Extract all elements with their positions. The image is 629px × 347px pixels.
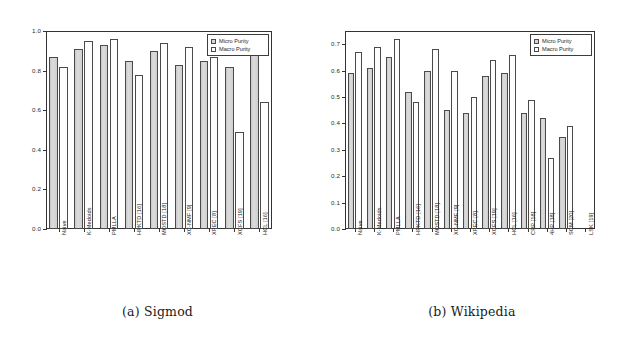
x-axis-tick	[432, 229, 433, 232]
bar-micro-purity	[175, 65, 184, 229]
bar-macro-purity	[490, 60, 497, 229]
x-axis-tick	[566, 229, 567, 232]
x-axis-tick	[412, 229, 413, 232]
x-axis-label: XCFS [19]	[491, 208, 497, 235]
x-axis-label: XPEC [8]	[472, 211, 478, 235]
bar-macro-purity	[84, 41, 93, 229]
panel-sigmod: 0.00.20.40.60.81.0NaiveK-MedoidsPMLLAHPK…	[0, 0, 315, 347]
y-axis-tick-label: 0.0	[319, 225, 340, 232]
x-axis-tick	[393, 229, 394, 232]
x-axis-tick	[159, 229, 160, 232]
x-axis-tick	[59, 229, 60, 232]
x-axis-tick	[355, 229, 356, 232]
bar-macro-purity	[471, 97, 478, 229]
y-axis-tick-label: 0.5	[319, 93, 340, 100]
bar-micro-purity	[424, 71, 431, 229]
caption-sigmod: (a) Sigmod	[0, 304, 315, 319]
bar-micro-purity	[100, 45, 109, 229]
y-axis-tick	[342, 229, 346, 230]
bar-micro-purity	[49, 57, 58, 229]
y-axis-tick-label: 0.6	[319, 67, 340, 74]
x-axis-tick	[489, 229, 490, 232]
x-axis-label: PMLLA	[395, 216, 401, 235]
y-axis-tick	[43, 110, 47, 111]
x-axis-label: XPEC [8]	[211, 211, 217, 235]
legend-swatch-macro-icon	[534, 47, 539, 52]
x-axis-tick	[528, 229, 529, 232]
x-axis-tick	[184, 229, 185, 232]
y-axis-tick	[342, 150, 346, 151]
bar-macro-purity	[59, 67, 68, 229]
x-axis-label: 4HP [18]	[549, 213, 555, 235]
x-axis-label: HCL [16]	[511, 212, 517, 235]
bar-macro-purity	[160, 43, 169, 229]
x-axis-label: LSK [19]	[588, 213, 594, 235]
bar-micro-purity	[405, 92, 412, 229]
x-axis-label: XC-NMF [9]	[186, 204, 192, 235]
y-axis-tick	[342, 176, 346, 177]
bar-micro-purity	[482, 76, 489, 229]
x-axis-tick	[508, 229, 509, 232]
bar-macro-purity	[509, 55, 516, 229]
bar-macro-purity	[210, 57, 219, 229]
y-axis-tick-label: 0.2	[319, 172, 340, 179]
x-axis-tick	[209, 229, 210, 232]
bar-micro-purity	[501, 73, 508, 229]
legend-item: Macro Purity	[211, 45, 265, 53]
x-axis-tick	[470, 229, 471, 232]
y-axis-tick-label: 0.1	[319, 199, 340, 206]
legend: Micro PurityMacro Purity	[207, 34, 269, 56]
x-axis-label: HPKTD [16]	[415, 204, 421, 235]
bar-micro-purity	[463, 113, 470, 229]
y-axis-tick	[43, 150, 47, 151]
bar-micro-purity	[521, 113, 528, 229]
x-axis-label: K-Medoids	[86, 207, 92, 235]
x-axis-label: HCL [16]	[262, 212, 268, 235]
bar-macro-purity	[260, 102, 269, 229]
bar-macro-purity	[110, 39, 119, 229]
y-axis-tick	[342, 97, 346, 98]
bar-macro-purity	[394, 39, 401, 229]
x-axis-tick	[234, 229, 235, 232]
x-axis-tick	[374, 229, 375, 232]
y-axis-tick-label: 0.4	[319, 119, 340, 126]
x-axis-tick	[547, 229, 548, 232]
x-axis-label: K-Medoids	[376, 207, 382, 235]
x-axis-tick	[585, 229, 586, 232]
x-axis-label: SCM [20]	[568, 211, 574, 235]
bar-micro-purity	[225, 67, 234, 229]
x-axis-label: MOSTD [18]	[161, 203, 167, 235]
x-axis-label: Naive	[357, 220, 363, 235]
bar-micro-purity	[386, 57, 393, 229]
y-axis-tick-label: 0.6	[20, 106, 41, 113]
x-axis-tick	[451, 229, 452, 232]
y-axis-tick-label: 0.4	[20, 146, 41, 153]
panel-wikipedia: 0.00.10.20.30.40.50.60.7NaiveK-MedoidsPM…	[315, 0, 629, 347]
y-axis-tick	[342, 203, 346, 204]
legend-label: Micro Purity	[542, 38, 572, 45]
legend-swatch-micro-icon	[211, 39, 216, 44]
bar-macro-purity	[374, 47, 381, 229]
y-axis-tick	[43, 189, 47, 190]
y-axis-tick	[342, 123, 346, 124]
x-axis-label: MOSTD [18]	[434, 203, 440, 235]
y-axis-tick	[43, 31, 47, 32]
bar-micro-purity	[74, 49, 83, 229]
y-axis-tick	[43, 229, 47, 230]
x-axis-label: PMLLA	[111, 216, 117, 235]
y-axis-tick-label: 0.8	[20, 67, 41, 74]
bar-macro-purity	[185, 47, 194, 229]
caption-wikipedia: (b) Wikipedia	[315, 304, 629, 319]
figure-root: 0.00.20.40.60.81.0NaiveK-MedoidsPMLLAHPK…	[0, 0, 629, 347]
bar-micro-purity	[200, 61, 209, 229]
bar-micro-purity	[348, 73, 355, 229]
x-axis-tick	[259, 229, 260, 232]
bar-macro-purity	[528, 100, 535, 229]
legend-item: Micro Purity	[534, 37, 588, 45]
legend-swatch-macro-icon	[211, 47, 216, 52]
x-axis-tick	[134, 229, 135, 232]
y-axis-tick-label: 0.7	[319, 40, 340, 47]
y-axis-tick-label: 1.0	[20, 27, 41, 34]
x-axis-label: Naive	[61, 220, 67, 235]
legend-item: Macro Purity	[534, 45, 588, 53]
